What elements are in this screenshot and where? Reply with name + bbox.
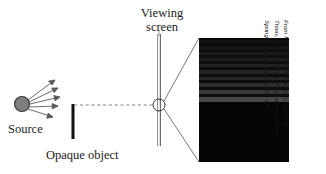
photo-credit-line-3: Springer-Verlag, 1962, plate 32 (263, 20, 272, 160)
opaque-object-bar (72, 104, 75, 139)
source-point (15, 97, 30, 112)
opaque-object-label: Opaque object (46, 148, 119, 162)
expansion-line-top (164, 38, 199, 101)
photo-credit: From M. Cagnet, M. Françon, and J. C. Th… (257, 20, 291, 160)
light-ray-2 (29, 88, 58, 102)
magnified-region-marker (153, 99, 165, 111)
light-ray-5 (28, 109, 53, 118)
light-ray-1 (28, 80, 55, 100)
light-rays-group (28, 80, 60, 118)
light-ray-4 (29, 104, 58, 109)
expansion-line-bottom (164, 109, 199, 162)
diffraction-figure: Viewing screen Source Opaque object From… (0, 0, 326, 174)
source-label: Source (8, 122, 43, 136)
viewing-screen-label: Viewing screen (124, 6, 200, 34)
photo-credit-line-2: Thierr, Atlas of Optical Phenomena, Berl… (272, 20, 281, 160)
photo-credit-line-1: From M. Cagnet, M. Françon, and J. C. (282, 20, 291, 160)
